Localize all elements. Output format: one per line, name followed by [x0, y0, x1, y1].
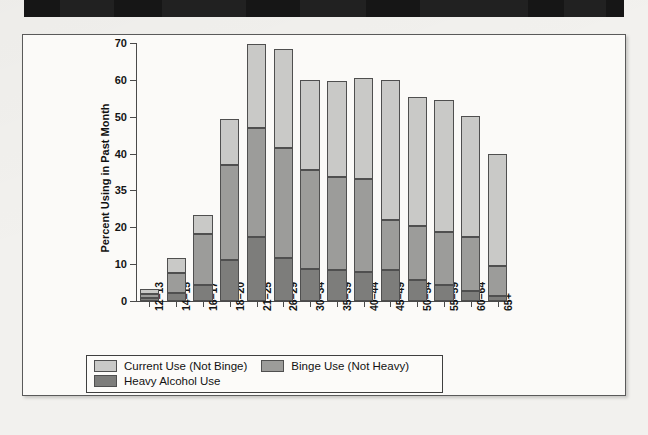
y-tick-label-35: 35: [101, 184, 127, 196]
x-tick-1: [176, 301, 177, 307]
bar-14-15: [167, 258, 186, 301]
bar-segment-binge-use-not-heavy: [434, 232, 453, 285]
bar-segment-heavy-alcohol-use: [140, 298, 159, 301]
y-tick-label-50: 50: [101, 111, 127, 123]
chart-legend: Current Use (Not Binge) Binge Use (Not H…: [86, 355, 443, 393]
bar-35-39: [327, 81, 346, 301]
bar-segment-current-use-not-binge: [300, 80, 319, 171]
bar-21-25: [247, 44, 266, 301]
bar-segment-heavy-alcohol-use: [381, 270, 400, 301]
bar-16-17: [193, 215, 212, 301]
bar-segment-binge-use-not-heavy: [193, 234, 212, 285]
bar-18-20: [220, 119, 239, 301]
bar-segment-binge-use-not-heavy: [247, 128, 266, 237]
bar-segment-heavy-alcohol-use: [167, 293, 186, 301]
legend-item-current-use: Current Use (Not Binge): [94, 360, 247, 372]
bar-30-34: [300, 80, 319, 302]
bar-segment-binge-use-not-heavy: [140, 294, 159, 298]
bar-segment-current-use-not-binge: [461, 116, 480, 238]
bar-40-44: [354, 78, 373, 301]
x-tick-6: [310, 301, 311, 307]
chart-figure: Percent Using in Past Month 010203540506…: [22, 34, 626, 396]
x-tick-2: [203, 301, 204, 307]
bar-segment-current-use-not-binge: [167, 258, 186, 274]
bar-45-49: [381, 80, 400, 301]
x-tick-11: [444, 301, 445, 307]
legend-swatch-heavy-use: [94, 375, 117, 387]
bar-segment-binge-use-not-heavy: [408, 226, 427, 279]
x-tick-9: [390, 301, 391, 307]
x-tick-13: [498, 301, 499, 307]
bar-65+: [488, 154, 507, 301]
y-tick-label-70: 70: [101, 37, 127, 49]
bar-segment-current-use-not-binge: [408, 97, 427, 226]
bar-segment-heavy-alcohol-use: [193, 285, 212, 301]
bar-segment-binge-use-not-heavy: [274, 148, 293, 257]
bar-segment-heavy-alcohol-use: [434, 285, 453, 301]
bar-55-59: [434, 100, 453, 301]
y-tick-label-60: 60: [101, 74, 127, 86]
legend-label-binge-use: Binge Use (Not Heavy): [291, 360, 409, 372]
bar-segment-heavy-alcohol-use: [300, 269, 319, 301]
x-tick-10: [417, 301, 418, 307]
bar-segment-current-use-not-binge: [247, 44, 266, 128]
bar-segment-heavy-alcohol-use: [461, 291, 480, 301]
bar-segment-current-use-not-binge: [220, 119, 239, 165]
legend-item-heavy-use: Heavy Alcohol Use: [94, 375, 221, 387]
bar-segment-current-use-not-binge: [434, 100, 453, 232]
legend-label-heavy-use: Heavy Alcohol Use: [124, 375, 221, 387]
bar-segment-current-use-not-binge: [381, 80, 400, 219]
bar-12-13: [140, 289, 159, 301]
x-tick-4: [257, 301, 258, 307]
y-tick-label-40: 40: [101, 148, 127, 160]
bar-segment-binge-use-not-heavy: [327, 177, 346, 270]
y-tick-0: [130, 301, 136, 302]
bar-series-container: [136, 43, 511, 301]
x-tick-3: [230, 301, 231, 307]
bar-segment-heavy-alcohol-use: [247, 237, 266, 302]
bar-segment-binge-use-not-heavy: [220, 165, 239, 261]
bar-segment-heavy-alcohol-use: [408, 280, 427, 301]
y-axis-title: Percent Using in Past Month: [99, 78, 111, 278]
bar-segment-current-use-not-binge: [354, 78, 373, 179]
legend-swatch-binge-use: [261, 360, 284, 372]
y-tick-label-0: 0: [101, 295, 127, 307]
bar-60-64: [461, 116, 480, 301]
bar-segment-binge-use-not-heavy: [461, 237, 480, 290]
bar-segment-current-use-not-binge: [193, 215, 212, 233]
bar-26-29: [274, 49, 293, 301]
bar-segment-binge-use-not-heavy: [354, 179, 373, 271]
bar-segment-heavy-alcohol-use: [354, 272, 373, 301]
bar-segment-heavy-alcohol-use: [274, 258, 293, 301]
x-tick-8: [364, 301, 365, 307]
x-tick-0: [149, 301, 150, 307]
legend-label-current-use: Current Use (Not Binge): [124, 360, 247, 372]
bar-50-54: [408, 97, 427, 301]
page-header-band: [24, 0, 624, 17]
bar-segment-current-use-not-binge: [488, 154, 507, 267]
bar-segment-binge-use-not-heavy: [167, 273, 186, 293]
bar-segment-binge-use-not-heavy: [300, 170, 319, 268]
bar-segment-current-use-not-binge: [274, 49, 293, 149]
bar-segment-heavy-alcohol-use: [488, 296, 507, 301]
x-tick-5: [283, 301, 284, 307]
bar-segment-binge-use-not-heavy: [381, 220, 400, 270]
bar-segment-heavy-alcohol-use: [327, 270, 346, 301]
x-tick-7: [337, 301, 338, 307]
legend-item-binge-use: Binge Use (Not Heavy): [261, 360, 409, 372]
x-tick-12: [471, 301, 472, 307]
bar-segment-current-use-not-binge: [140, 289, 159, 294]
bar-segment-heavy-alcohol-use: [220, 260, 239, 301]
bar-segment-binge-use-not-heavy: [488, 266, 507, 296]
plot-area: Percent Using in Past Month 010203540506…: [23, 35, 625, 395]
bar-segment-current-use-not-binge: [327, 81, 346, 177]
y-tick-label-10: 10: [101, 258, 127, 270]
y-tick-label-20: 20: [101, 221, 127, 233]
legend-swatch-current-use: [94, 360, 117, 372]
